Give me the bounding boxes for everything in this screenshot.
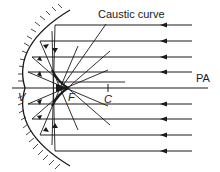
focal-cusp	[56, 84, 68, 92]
caustic-pointer	[64, 24, 106, 84]
vertex-label: V	[18, 91, 27, 103]
axis-label: PA	[196, 72, 211, 84]
center-label: C	[104, 93, 112, 105]
focus-label: F	[68, 91, 76, 103]
mirror-diagram: Caustic curve PA V F C	[0, 0, 220, 172]
caustic-label: Caustic curve	[98, 8, 165, 20]
